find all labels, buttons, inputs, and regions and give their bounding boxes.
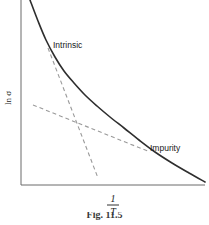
intrinsic-asymptote-line (48, 48, 98, 178)
arrhenius-plot-svg: Intrinsic Impurity ln σ 1 T (0, 0, 209, 225)
intrinsic-annotation-label: Intrinsic (53, 40, 83, 50)
impurity-asymptote-line (33, 105, 150, 152)
impurity-annotation-label: Impurity (150, 143, 181, 153)
figure-container: Intrinsic Impurity ln σ 1 T (0, 0, 209, 225)
figure-caption: Fig. 11.5 (0, 212, 209, 220)
y-axis-label: ln σ (3, 91, 13, 105)
figure-caption-clip: Fig. 11.5 (0, 212, 209, 225)
x-axis-label-numerator: 1 (111, 193, 116, 204)
conductivity-curve (30, 0, 205, 182)
